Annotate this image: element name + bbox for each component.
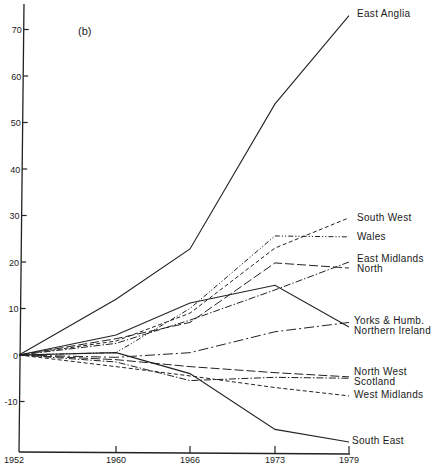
series-label: Scotland <box>354 376 395 387</box>
series-line-north <box>19 263 349 355</box>
y-tick-label: 10 <box>9 304 19 314</box>
series-line-north-west <box>19 355 349 377</box>
y-tick-label: 50 <box>11 118 21 128</box>
x-tick-label: 1973 <box>265 455 285 464</box>
panel-label: (b) <box>78 25 91 37</box>
y-tick-label: 70 <box>12 25 22 35</box>
y-tick-label: 60 <box>11 72 21 82</box>
series-label: South West <box>357 212 412 223</box>
series-line-east-midlands <box>19 262 349 355</box>
x-tick-label: 1979 <box>339 455 359 464</box>
series-label: North <box>357 263 383 274</box>
x-tick-label: 1952 <box>4 455 24 464</box>
series-line-east-anglia <box>19 16 349 355</box>
series-label: South East <box>352 435 404 446</box>
x-tick-label: 1960 <box>106 455 126 464</box>
series-line-south-east <box>19 353 349 442</box>
series-group <box>19 16 349 442</box>
series-line-wales <box>19 236 349 355</box>
series-line-west-midlands <box>19 355 349 396</box>
series-line-northern-ireland <box>19 285 349 355</box>
x-tick-label: 1966 <box>180 455 200 464</box>
series-line-scotland <box>19 355 349 381</box>
y-tick-label: 30 <box>10 211 20 221</box>
series-labels: East AngliaSouth WestWalesEast MidlandsN… <box>352 8 431 446</box>
y-tick-label: 20 <box>9 258 19 268</box>
series-label: East Anglia <box>357 8 410 19</box>
series-label: Northern Ireland <box>354 325 431 336</box>
series-label: Wales <box>357 231 386 242</box>
series-line-south-west <box>19 218 349 355</box>
y-tick-label: 40 <box>10 165 20 175</box>
y-axis: -10010203040506070 <box>5 4 29 452</box>
series-label: West Midlands <box>354 389 423 400</box>
series-line-yorks-humb <box>19 322 349 357</box>
x-axis: 19521960196619731979 <box>4 446 359 464</box>
line-chart: -10010203040506070 19521960196619731979 … <box>0 0 434 464</box>
y-tick-label: 0 <box>13 351 18 361</box>
y-tick-label: -10 <box>5 397 18 407</box>
